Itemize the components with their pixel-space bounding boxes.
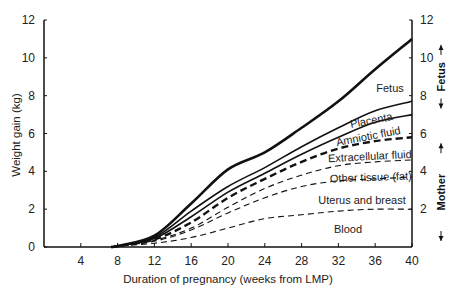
- y-tick-label: 10: [22, 51, 36, 65]
- y-axis-title: Weight gain (kg): [10, 93, 22, 177]
- arrow-up-icon: [439, 143, 444, 148]
- band-label: Amniotic fluid: [335, 124, 402, 148]
- series-lines: [111, 39, 412, 247]
- arrow-up-icon: [439, 45, 444, 50]
- side-label-fetus: Fetus: [435, 62, 447, 91]
- x-tick-label: 20: [221, 254, 235, 268]
- right-y-tick-label: 8: [420, 89, 427, 103]
- x-tick-label: 32: [332, 254, 346, 268]
- side-brackets: FetusMother: [435, 45, 447, 241]
- x-tick-label: 16: [185, 254, 199, 268]
- x-tick-label: 24: [258, 254, 272, 268]
- band-label: Blood: [334, 223, 362, 235]
- right-y-tick-label: 2: [420, 202, 427, 216]
- right-y-tick-label: 10: [420, 51, 434, 65]
- x-tick-label: 4: [77, 254, 84, 268]
- arrow-down-icon: [439, 236, 444, 241]
- right-y-tick-label: 6: [420, 127, 427, 141]
- band-label: Uterus and breast: [318, 194, 405, 206]
- x-tick-label: 12: [148, 254, 162, 268]
- right-y-tick-label: 4: [420, 164, 427, 178]
- y-tick-label: 2: [28, 202, 35, 216]
- y-tick-label: 6: [28, 127, 35, 141]
- y-tick-label: 8: [28, 89, 35, 103]
- weight-gain-chart: 02468101224681012481216202428323640 Fetu…: [0, 0, 458, 292]
- y-tick-label: 4: [28, 164, 35, 178]
- y-tick-label: 12: [22, 13, 36, 27]
- x-tick-label: 8: [114, 254, 121, 268]
- band-label: Extracellular fluid: [328, 148, 412, 164]
- band-label: Fetus: [376, 82, 404, 94]
- x-axis-title: Duration of pregnancy (weeks from LMP): [123, 273, 333, 285]
- right-y-tick-label: 12: [420, 13, 434, 27]
- side-label-mother: Mother: [435, 173, 447, 210]
- x-tick-label: 36: [369, 254, 383, 268]
- x-tick-label: 28: [295, 254, 309, 268]
- y-tick-label: 0: [28, 240, 35, 254]
- band-label: Other tissue (fat): [330, 170, 412, 185]
- arrow-down-icon: [439, 104, 444, 109]
- x-tick-label: 40: [405, 254, 419, 268]
